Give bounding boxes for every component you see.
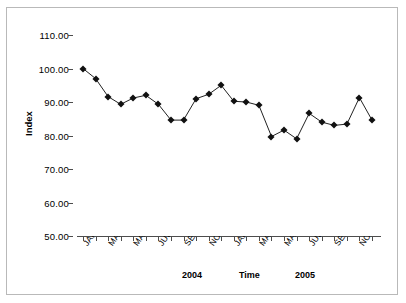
x-axis-period-row: 2004Time2005 (7, 270, 399, 286)
y-axis-tick-label: 50.00 (44, 231, 69, 242)
chart-frame: Index 110.00100.0090.0080.0070.0060.0050… (6, 7, 398, 295)
y-axis-tick (68, 35, 73, 36)
y-axis-tick-label: 60.00 (44, 197, 69, 208)
y-axis-tick (68, 169, 73, 170)
y-axis-tick-label: 110.00 (39, 30, 69, 41)
y-axis-tick (68, 136, 73, 137)
x-axis-period-2004: 2004 (182, 270, 202, 280)
y-axis-tick (68, 69, 73, 70)
y-axis-labels: 110.00100.0090.0080.0070.0060.0050.00 (7, 35, 73, 236)
x-axis-labels: JANMARMAYJULSEPNOVJANMARMAYJULSEPNOV (77, 242, 381, 270)
x-axis-title: Time (239, 270, 260, 280)
x-axis-period-2005: 2005 (295, 270, 315, 280)
y-axis-tick (68, 102, 73, 103)
y-axis-tick (68, 236, 73, 237)
y-axis-tick-label: 90.00 (44, 97, 69, 108)
y-axis-tick-label: 80.00 (44, 130, 69, 141)
y-axis-tick-label: 100.00 (39, 63, 69, 74)
data-series-line (77, 35, 380, 236)
y-axis-tick (68, 203, 73, 204)
y-axis-tick-label: 70.00 (44, 164, 69, 175)
plot-area (77, 35, 380, 236)
